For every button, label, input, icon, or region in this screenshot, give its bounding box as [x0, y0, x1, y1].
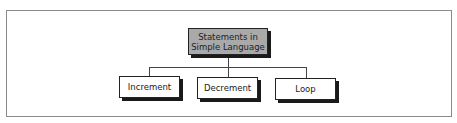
connector-vertical-increment	[149, 67, 150, 76]
child-node-label: Loop	[295, 84, 315, 94]
child-node-label: Increment	[128, 82, 171, 92]
root-node-label: Statements in Simple Language	[189, 32, 267, 52]
diagram-frame	[6, 10, 452, 117]
child-node-increment: Increment	[119, 76, 180, 98]
child-node-decrement: Decrement	[197, 77, 258, 99]
child-node-label: Decrement	[204, 83, 251, 93]
connector-vertical-loop	[306, 67, 307, 78]
child-node-loop: Loop	[275, 78, 336, 100]
root-node: Statements in Simple Language	[188, 28, 268, 55]
connector-vertical-decrement	[228, 67, 229, 77]
